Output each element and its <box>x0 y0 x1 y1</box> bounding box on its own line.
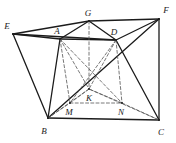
vertex-label-G: G <box>85 9 92 18</box>
vertex-dot-D <box>115 39 117 41</box>
vertex-label-C: C <box>158 128 164 137</box>
vertex-label-A: A <box>54 27 60 36</box>
vertex-dot-group <box>12 18 160 121</box>
vertex-dot-K <box>88 88 90 90</box>
vertex-dot-E <box>12 33 14 35</box>
vertex-dot-N <box>121 102 123 104</box>
vertex-dot-G <box>88 20 90 22</box>
edge-DK <box>89 40 116 89</box>
vertex-label-B: B <box>41 127 47 136</box>
vertex-dot-B <box>47 117 49 119</box>
vertex-dot-A <box>59 38 61 40</box>
edge-AK <box>60 39 89 89</box>
vertex-label-K: K <box>86 94 92 103</box>
edge-DM <box>70 40 116 103</box>
vertex-dot-M <box>69 102 71 104</box>
vertex-dot-F <box>158 18 160 20</box>
edge-DF <box>116 19 159 40</box>
vertex-label-N: N <box>118 108 124 117</box>
solid-edge-group <box>13 19 159 120</box>
edge-EB <box>13 34 48 118</box>
vertex-label-E: E <box>4 22 10 31</box>
vertex-label-M: M <box>65 108 73 117</box>
vertex-label-F: F <box>163 6 169 15</box>
edge-BC <box>48 118 159 120</box>
edge-GF <box>89 19 159 21</box>
figure-canvas <box>0 0 176 143</box>
vertex-label-D: D <box>111 28 118 37</box>
edge-AB <box>48 39 60 118</box>
vertex-dot-C <box>158 119 160 121</box>
edge-AM <box>60 39 70 103</box>
geometry-figure: EGFADKMNBC <box>0 0 176 143</box>
